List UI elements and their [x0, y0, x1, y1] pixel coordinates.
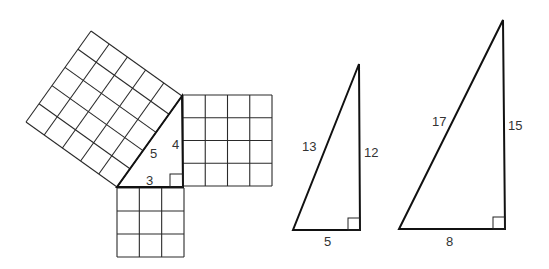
grid-line [81, 70, 146, 161]
hypotenuse-label: 13 [302, 139, 316, 154]
vertical-leg-label: 12 [364, 145, 378, 160]
triangle-8-15-17-outline [399, 20, 505, 229]
grid-line [62, 57, 127, 148]
base-leg-square-grid [117, 188, 184, 257]
grid-line [91, 31, 182, 96]
base-leg-label: 3 [146, 173, 153, 188]
grid-line [26, 31, 91, 122]
grid-line [26, 122, 117, 187]
vertical-leg-label: 15 [508, 118, 522, 133]
grid-line [78, 49, 169, 114]
grid-line [39, 104, 130, 169]
right-angle-marker-icon [493, 217, 505, 229]
pythagorean-diagram: 5 4 3 13 12 5 17 15 8 [0, 0, 549, 269]
triangle-3-4-5: 5 4 3 [117, 96, 183, 188]
base-leg-label: 5 [324, 234, 331, 249]
vertical-leg-label: 4 [172, 137, 179, 152]
triangle-5-12-13: 13 12 5 [293, 64, 378, 249]
hypotenuse-label: 17 [432, 114, 446, 129]
hypotenuse-label: 5 [150, 146, 157, 161]
vertical-leg-square-grid [183, 95, 272, 186]
grid-line [44, 44, 109, 135]
base-leg-label: 8 [446, 234, 453, 249]
right-angle-marker-icon [170, 174, 183, 187]
grid-line [65, 67, 156, 132]
grid-line [52, 86, 143, 151]
hypotenuse-square-grid [26, 31, 182, 187]
right-angle-marker-icon [348, 218, 360, 230]
triangle-8-15-17: 17 15 8 [399, 20, 522, 249]
